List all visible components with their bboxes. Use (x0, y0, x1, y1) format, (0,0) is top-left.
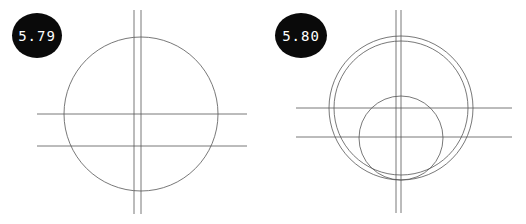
construction-drawing-2 (0, 0, 526, 224)
